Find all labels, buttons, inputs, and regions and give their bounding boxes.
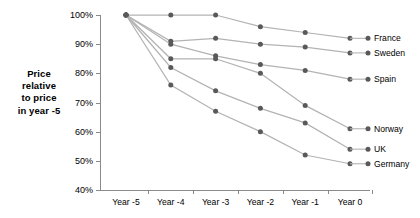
x-axis-tick — [283, 190, 284, 194]
legend-label-france: France — [374, 33, 401, 43]
legend-endpoint-marker — [366, 161, 371, 166]
x-axis-tick-label: Year 0 — [338, 197, 363, 207]
data-point-marker — [258, 24, 263, 29]
legend-endpoint-marker — [366, 77, 371, 82]
legend-label-spain: Spain — [374, 74, 396, 84]
chart-figure: Price relative to price in year -5 40%50… — [0, 0, 420, 218]
data-point-marker — [303, 45, 308, 50]
x-axis-tick-label: Year -3 — [202, 197, 229, 207]
legend-label-norway: Norway — [374, 124, 403, 134]
data-point-marker — [303, 30, 308, 35]
series-line — [126, 15, 350, 129]
legend-label-germany: Germany — [374, 159, 409, 169]
legend-label-sweden: Sweden — [374, 48, 405, 58]
data-point-marker — [213, 36, 218, 41]
data-point-marker — [213, 13, 218, 18]
y-axis-title-line-2: relative — [2, 80, 76, 92]
data-point-marker — [258, 106, 263, 111]
y-axis-title-line-3: to price — [2, 92, 76, 104]
data-point-marker — [213, 109, 218, 114]
x-axis-tick — [148, 190, 149, 194]
x-axis-line — [100, 190, 370, 191]
data-point-marker — [303, 120, 308, 125]
x-axis-tick — [238, 190, 239, 194]
data-point-marker — [213, 88, 218, 93]
x-axis-tick-label: Year -2 — [247, 197, 274, 207]
y-axis-tick-label: 90% — [75, 39, 93, 49]
x-axis-tick — [328, 190, 329, 194]
legend-endpoint-marker — [366, 36, 371, 41]
data-point-marker — [213, 56, 218, 61]
x-axis-tick-label: Year -4 — [157, 197, 184, 207]
x-axis-tick — [193, 190, 194, 194]
series-canvas — [100, 15, 370, 190]
data-point-marker — [303, 103, 308, 108]
y-axis-title-line-4: in year -5 — [2, 105, 76, 117]
x-axis-tick-label: Year -5 — [112, 197, 139, 207]
data-point-marker — [168, 65, 173, 70]
y-axis-tick-label: 100% — [70, 10, 93, 20]
data-point-marker — [168, 13, 173, 18]
y-axis-tick-label: 50% — [75, 156, 93, 166]
y-axis-title: Price relative to price in year -5 — [2, 68, 76, 117]
legend-label-uk: UK — [374, 144, 386, 154]
y-axis-tick-label: 60% — [75, 127, 93, 137]
y-axis-tick-label: 80% — [75, 68, 93, 78]
plot-area: 40%50%60%70%80%90%100% Year -5Year -4Yea… — [100, 15, 370, 190]
legend-endpoint-marker — [366, 126, 371, 131]
data-point-marker — [168, 83, 173, 88]
y-axis-tick-label: 40% — [75, 185, 93, 195]
data-point-marker — [124, 13, 129, 18]
data-point-marker — [168, 42, 173, 47]
y-axis-tick-label: 70% — [75, 98, 93, 108]
y-axis-tick — [96, 190, 100, 191]
data-point-marker — [303, 153, 308, 158]
data-point-marker — [303, 68, 308, 73]
y-axis-title-line-1: Price — [2, 68, 76, 80]
data-point-marker — [168, 56, 173, 61]
legend-endpoint-marker — [366, 50, 371, 55]
data-point-marker — [258, 129, 263, 134]
legend-endpoint-marker — [366, 147, 371, 152]
x-axis-tick-label: Year -1 — [291, 197, 318, 207]
data-point-marker — [258, 62, 263, 67]
data-point-marker — [258, 71, 263, 76]
x-axis-tick — [372, 190, 373, 194]
data-point-marker — [258, 42, 263, 47]
